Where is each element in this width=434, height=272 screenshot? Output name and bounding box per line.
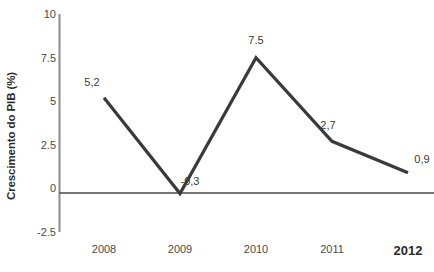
y-tick-label: -2.5 [12,227,56,238]
y-tick-label: 0 [12,183,56,194]
y-tick-label: 7.5 [12,52,56,63]
x-tick-label-2009: 2009 [168,243,192,255]
data-point-label-2012: 0,9 [414,153,429,165]
data-series-line [104,58,408,194]
plot-area: 5,2-0,37.52,70,9 [58,0,434,272]
x-tick-label-2008: 2008 [92,243,116,255]
x-tick-label-2011: 2011 [320,243,344,255]
data-point-label-2011: 2,7 [320,119,335,131]
x-axis-tick-labels: 20082009201020112012 [58,243,434,267]
y-axis-tick-labels: 107.552.50-2.5 [10,0,56,272]
x-tick-label-2010: 2010 [244,243,268,255]
data-point-label-2010: 7.5 [248,34,263,46]
y-tick-label: 10 [12,9,56,20]
x-tick-label-2012: 2012 [394,243,423,258]
data-point-label-2008: 5,2 [84,76,99,88]
plot-svg [58,0,434,272]
y-tick-label: 2.5 [12,139,56,150]
gdp-growth-line-chart: Crescimento do PIB (%) 107.552.50-2.5 5,… [0,0,434,272]
y-tick-label: 5 [12,96,56,107]
data-point-label-2009: -0,3 [181,175,200,187]
